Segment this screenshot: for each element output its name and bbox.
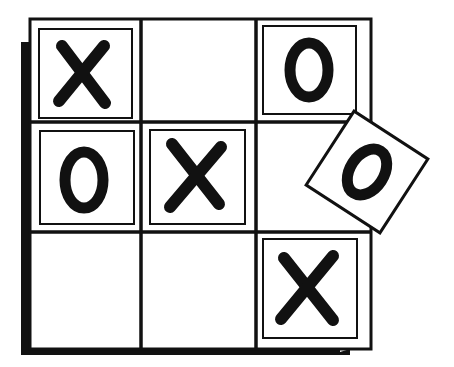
cell-r3c3[interactable]	[263, 239, 357, 338]
cell-r1c3[interactable]	[263, 26, 356, 114]
cell-r1c2[interactable]	[143, 21, 254, 120]
cell-r3c1[interactable]	[32, 234, 139, 346]
cell-r1c1[interactable]	[39, 29, 132, 118]
cell-r2c1[interactable]	[40, 131, 134, 224]
tic-tac-toe-board	[0, 0, 454, 367]
cell-r2c2[interactable]	[150, 130, 245, 224]
cell-r3c2[interactable]	[143, 234, 254, 346]
